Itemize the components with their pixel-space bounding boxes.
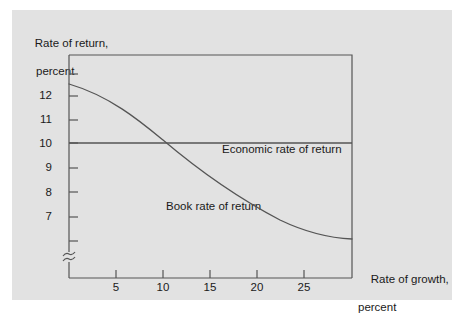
y-axis-ticks <box>69 74 78 241</box>
plot-frame-top-right-border <box>69 55 352 278</box>
chart-plot-svg <box>0 0 464 319</box>
series-book-rate-of-return <box>69 84 352 239</box>
y-axis-break-icon <box>63 252 75 261</box>
x-axis-ticks <box>116 270 304 278</box>
chart-figure: Rate of return, percent Rate of growth, … <box>0 0 464 319</box>
